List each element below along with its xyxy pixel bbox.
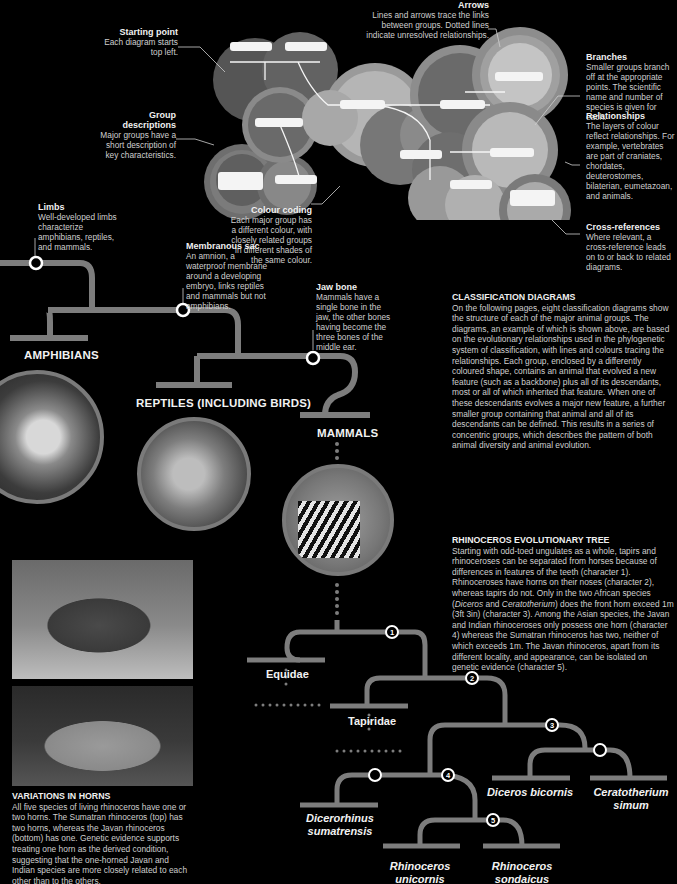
variations-in-horns-section: VARIATIONS IN HORNS All five species of …	[12, 791, 192, 884]
section-title: VARIATIONS IN HORNS	[12, 791, 192, 802]
species-rhinoceros-sondaicus: Rhinoceros sondaicus	[472, 860, 572, 884]
javan-rhino-photo	[12, 686, 193, 786]
species-rhinoceros-unicornis: Rhinoceros unicornis	[370, 860, 470, 884]
character-5: 5	[491, 816, 495, 825]
sumatran-rhino-photo	[12, 560, 193, 679]
species-diceros-bicornis: Diceros bicornis	[480, 786, 580, 799]
family-tapiridae: Tapiridae	[348, 715, 396, 727]
character-2: 2	[470, 674, 474, 683]
species-ceratotherium-simum: Ceratotherium simum	[585, 786, 677, 812]
character-1: 1	[390, 628, 394, 637]
character-3: 3	[550, 721, 554, 730]
species-dicerorhinus-sumatrensis: Dicerorhinus sumatrensis	[290, 812, 390, 838]
family-equidae: Equidae	[266, 668, 309, 680]
section-text: All five species of living rhinoceros ha…	[12, 802, 187, 884]
